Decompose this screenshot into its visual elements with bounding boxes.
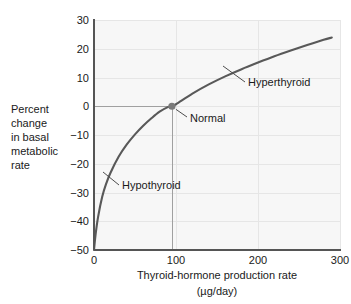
- y-axis-title-line: change: [11, 117, 47, 129]
- x-axis-units-label: (µg/day): [197, 285, 238, 297]
- y-axis-title-line: rate: [11, 159, 30, 171]
- y-tick-label: −10: [70, 129, 89, 141]
- y-axis-title-line: Percent: [11, 103, 49, 115]
- y-tick-label: 30: [77, 14, 89, 26]
- x-tick-label: 300: [331, 254, 349, 266]
- y-tick-label: −40: [70, 215, 89, 227]
- y-tick-label: −30: [70, 187, 89, 199]
- y-tick-label: −50: [70, 244, 89, 256]
- annotation-hypothyroid: Hypothyroid: [122, 179, 181, 191]
- annotation-normal: Normal: [190, 112, 225, 124]
- y-axis-title-line: metabolic: [11, 145, 59, 157]
- chart-figure: 3020100−10−20−30−40−50 0100200300 Percen…: [0, 0, 351, 304]
- y-tick-label: 0: [83, 100, 89, 112]
- y-axis-title-line: in basal: [11, 131, 49, 143]
- y-tick-label: 10: [77, 72, 89, 84]
- normal-point-marker: [168, 103, 175, 110]
- y-tick-label: −20: [70, 158, 89, 170]
- thyroid-hormone-bmr-chart: 3020100−10−20−30−40−50 0100200300 Percen…: [0, 0, 351, 304]
- y-tick-label: 20: [77, 43, 89, 55]
- annotation-hyperthyroid: Hyperthyroid: [248, 76, 310, 88]
- x-tick-label: 200: [249, 254, 267, 266]
- x-tick-label: 0: [91, 254, 97, 266]
- x-axis-title: Thyroid-hormone production rate: [137, 269, 297, 281]
- x-tick-label: 100: [167, 254, 185, 266]
